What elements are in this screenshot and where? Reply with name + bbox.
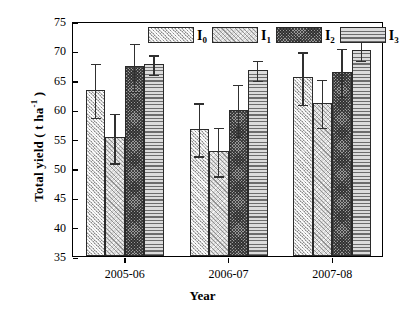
bar-I3-2005-06 — [144, 64, 164, 256]
y-axis-title: Total yield ( t ha-1 ) — [29, 32, 46, 262]
y-tick-mark — [73, 258, 78, 259]
y-tick-label: 50 — [54, 162, 66, 177]
y-axis-title-text: Total yield ( t ha — [31, 108, 46, 202]
error-bar-stem — [238, 85, 239, 138]
y-tick-mark — [73, 169, 78, 170]
legend-item-I2[interactable]: I2 — [276, 27, 337, 43]
error-bar-cap-bottom — [233, 137, 243, 138]
error-bar-cap-top — [253, 61, 263, 62]
legend-label-I0: I0 — [197, 29, 207, 43]
error-bar-stem — [95, 64, 96, 119]
error-bar-cap-top — [91, 64, 101, 65]
x-tick-label: 2006-07 — [184, 267, 274, 282]
legend-item-I1[interactable]: I1 — [212, 27, 273, 43]
y-tick-label: 65 — [54, 74, 66, 89]
error-bar-cap-top — [194, 103, 204, 104]
error-bar-cap-top — [149, 55, 159, 56]
error-bar-cap-top — [214, 128, 224, 129]
error-bar-cap-top — [298, 52, 308, 53]
error-bar-cap-bottom — [110, 163, 120, 164]
y-tick-label: 75 — [54, 15, 66, 30]
bar-I2-2005-06 — [125, 66, 145, 256]
error-bar-stem — [218, 128, 219, 177]
legend-swatch-I3 — [340, 27, 386, 43]
bar-I3-2007-08 — [352, 50, 372, 256]
y-tick-mark — [73, 199, 78, 200]
chart-figure: Total yield ( t ha-1 ) Year 354045505560… — [0, 0, 405, 316]
error-bar-cap-bottom — [356, 61, 366, 62]
error-bar-cap-bottom — [149, 75, 159, 76]
x-tick-label: 2005-06 — [80, 267, 170, 282]
x-tick-mark — [228, 258, 229, 263]
y-tick-mark — [73, 228, 78, 229]
error-bar-stem — [134, 44, 135, 93]
error-bar-cap-top — [130, 44, 140, 45]
error-bar-stem — [302, 52, 303, 106]
y-tick-mark — [73, 23, 78, 24]
y-tick-label: 35 — [54, 250, 66, 265]
bar-I3-2006-07 — [248, 70, 268, 256]
error-bar-cap-bottom — [214, 176, 224, 177]
y-tick-label: 60 — [54, 103, 66, 118]
plot-area: 354045505560657075 2005-062006-072007-08… — [72, 22, 383, 257]
legend-label-I2: I2 — [325, 29, 335, 43]
error-bar-cap-bottom — [253, 81, 263, 82]
x-tick-mark — [332, 258, 333, 263]
y-tick-label: 70 — [54, 44, 66, 59]
error-bar-stem — [153, 55, 154, 76]
x-axis-title: Year — [0, 288, 405, 304]
error-bar-stem — [114, 114, 115, 165]
y-tick-mark — [73, 81, 78, 82]
x-tick-mark — [124, 258, 125, 263]
error-bar-cap-bottom — [317, 128, 327, 129]
y-tick-label: 40 — [54, 221, 66, 236]
y-axis-title-exponent: -1 — [29, 100, 39, 108]
legend-label-I1: I1 — [261, 29, 271, 43]
error-bar-stem — [322, 80, 323, 129]
error-bar-stem — [199, 103, 200, 157]
legend-item-I3[interactable]: I3 — [340, 27, 401, 43]
y-axis-title-tail: ) — [31, 92, 46, 100]
error-bar-cap-top — [110, 114, 120, 115]
y-tick-label: 45 — [54, 191, 66, 206]
y-tick-mark — [73, 140, 78, 141]
y-tick-label: 55 — [54, 133, 66, 148]
error-bar-stem — [257, 61, 258, 82]
chart-legend: I0I1I2I3 — [148, 27, 404, 43]
legend-label-I3: I3 — [389, 29, 399, 43]
error-bar-cap-top — [233, 85, 243, 86]
error-bar-cap-top — [317, 80, 327, 81]
error-bar-cap-bottom — [298, 105, 308, 106]
legend-item-I0[interactable]: I0 — [148, 27, 209, 43]
y-tick-mark — [73, 111, 78, 112]
error-bar-cap-bottom — [130, 92, 140, 93]
legend-swatch-I1 — [212, 27, 258, 43]
error-bar-cap-bottom — [194, 156, 204, 157]
error-bar-cap-top — [337, 49, 347, 50]
x-tick-label: 2007-08 — [287, 267, 377, 282]
error-bar-stem — [361, 42, 362, 62]
legend-swatch-I0 — [148, 27, 194, 43]
error-bar-cap-bottom — [91, 118, 101, 119]
bar-I2-2007-08 — [332, 72, 352, 256]
legend-swatch-I2 — [276, 27, 322, 43]
error-bar-stem — [341, 49, 342, 98]
y-tick-mark — [73, 52, 78, 53]
error-bar-cap-bottom — [337, 97, 347, 98]
